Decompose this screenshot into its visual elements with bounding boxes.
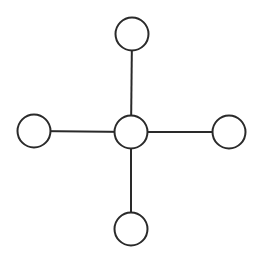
node-right xyxy=(213,116,246,149)
star-graph-diagram xyxy=(0,0,262,263)
node-left xyxy=(18,115,51,148)
node-top xyxy=(116,18,149,51)
node-center xyxy=(115,116,148,149)
node-bottom xyxy=(115,213,148,246)
